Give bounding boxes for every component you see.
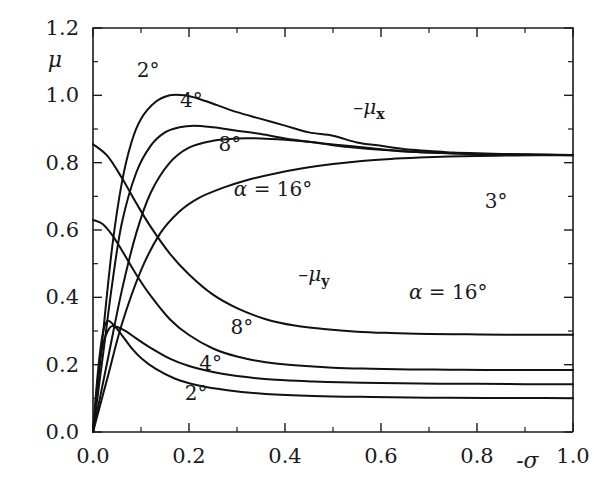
curve-mu_y-4deg bbox=[93, 326, 573, 432]
label-mux-4deg: 4° bbox=[180, 88, 203, 112]
label-mux-2deg: 2° bbox=[137, 58, 160, 82]
curve-series bbox=[93, 95, 573, 432]
xtick-label: 0.2 bbox=[172, 444, 205, 468]
axis-tick-labels: 0.00.20.40.60.81.00.00.40.60.81.01.20.2 bbox=[46, 16, 590, 468]
xtick-label: 1.0 bbox=[556, 444, 589, 468]
xtick-label: 0.4 bbox=[268, 444, 301, 468]
label-muy-8deg: 8° bbox=[230, 315, 253, 339]
curve-mu_y-8deg bbox=[93, 220, 573, 370]
axis-ticks bbox=[93, 28, 573, 432]
label-muy-16deg: α = 16° bbox=[409, 280, 487, 304]
label-3deg: 3° bbox=[485, 189, 508, 213]
chart-figure: 0.00.20.40.60.81.00.00.40.60.81.01.20.2 … bbox=[0, 0, 614, 487]
label-muy-2deg: 2° bbox=[185, 381, 208, 405]
mu-vs-sigma-plot: 0.00.20.40.60.81.00.00.40.60.81.01.20.2 … bbox=[0, 0, 614, 487]
y-axis-title: μ bbox=[48, 47, 62, 72]
axis-frame bbox=[93, 28, 573, 432]
xtick-label: 0.0 bbox=[76, 444, 109, 468]
label-muy-4deg: 4° bbox=[199, 351, 222, 375]
ytick-label: 0.0 bbox=[46, 420, 79, 444]
curve-mu_y-16deg bbox=[93, 144, 573, 335]
ytick-label: 0.8 bbox=[46, 151, 79, 175]
ytick-label: 0.2 bbox=[46, 353, 79, 377]
x-axis-title: -σ bbox=[516, 448, 539, 473]
curve-mu_x-4deg bbox=[93, 126, 573, 432]
chart-annotations: 2°4°8°α = 16°–μx3°–μyα = 16°8°4°2° bbox=[137, 58, 508, 405]
ytick-label: 0.6 bbox=[46, 218, 79, 242]
xtick-label: 0.8 bbox=[460, 444, 493, 468]
label-mux-8deg: 8° bbox=[218, 132, 241, 156]
ytick-label: 1.0 bbox=[46, 83, 79, 107]
axis-titles: μ-σ bbox=[48, 47, 540, 473]
curve-mu_y-2deg bbox=[93, 321, 573, 432]
label-mux-16deg: α = 16° bbox=[234, 177, 312, 201]
ytick-label: 1.2 bbox=[46, 16, 79, 40]
label-muy-curve-family: –μy bbox=[298, 262, 330, 289]
curve-mu_x-8deg bbox=[93, 138, 573, 432]
xtick-label: 0.6 bbox=[364, 444, 397, 468]
ytick-label: 0.4 bbox=[46, 285, 79, 309]
label-mux-curve-family: –μx bbox=[353, 95, 385, 122]
